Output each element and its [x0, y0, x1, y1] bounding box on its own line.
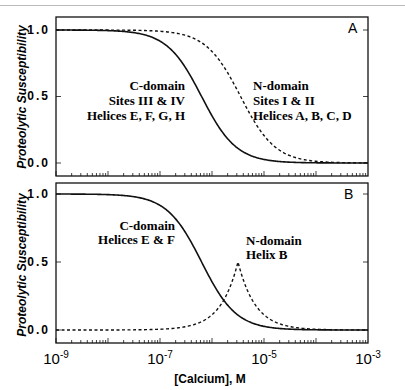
- svg-text:C-domain: C-domain: [119, 218, 175, 233]
- svg-text:Helix B: Helix B: [246, 247, 288, 262]
- panel-a-c-domain-curve: [56, 30, 368, 163]
- panel-b-ticks: [56, 194, 368, 343]
- panel-b-ylabel: Proteolytic Susceptibility: [15, 192, 29, 337]
- x-axis-label: [Calcium], M: [174, 372, 245, 386]
- xtick-1e-7: 10-7: [147, 349, 173, 367]
- panel-a-n-domain-curve: [56, 30, 368, 163]
- panel-a-ylabel: Proteolytic Susceptibility: [15, 24, 29, 169]
- xtick-1e-9: 10-9: [43, 349, 69, 367]
- panel-a-n-domain-annotation: N-domain Sites I & II Helices A, B, C, D: [253, 78, 352, 123]
- panel-b-ytick-0: 0.0: [27, 323, 50, 337]
- svg-text:Sites III & IV: Sites III & IV: [109, 93, 186, 108]
- panel-b-label: B: [344, 186, 353, 202]
- panel-b-ytick-05: 0.5: [27, 255, 50, 269]
- panel-a-c-domain-annotation: C-domain Sites III & IV Helices E, F, G,…: [87, 78, 186, 123]
- svg-text:Helices E & F: Helices E & F: [98, 232, 175, 247]
- panel-b-ytick-1: 1.0: [27, 187, 50, 201]
- panel-b-c-domain-annotation: C-domain Helices E & F: [98, 218, 176, 247]
- panel-b-n-domain-curve: [56, 262, 368, 330]
- svg-text:N-domain: N-domain: [246, 233, 302, 248]
- svg-text:Helices A, B, C, D: Helices A, B, C, D: [253, 108, 352, 123]
- svg-text:Helices E, F, G, H: Helices E, F, G, H: [87, 108, 185, 123]
- panel-a-ytick-0: 0.0: [27, 156, 50, 170]
- panel-b-c-domain-curve: [56, 194, 368, 330]
- svg-text:C-domain: C-domain: [129, 78, 185, 93]
- panel-b-n-domain-annotation: N-domain Helix B: [246, 233, 302, 262]
- panel-b-frame: [56, 183, 368, 343]
- panel-a-frame: [56, 17, 368, 176]
- panel-a-ytick-05: 0.5: [27, 89, 50, 103]
- xtick-1e-5: 10-5: [251, 349, 277, 367]
- chart-canvas: 1.0 0.5 0.0 1.0 0.5 0.0 Proteolytic Susc…: [0, 0, 405, 390]
- figure: 1.0 0.5 0.0 1.0 0.5 0.0 Proteolytic Susc…: [0, 0, 405, 390]
- xtick-1e-3: 10-3: [355, 349, 381, 367]
- panel-a-ytick-1: 1.0: [27, 23, 50, 37]
- panel-a-label: A: [348, 20, 358, 36]
- svg-text:N-domain: N-domain: [253, 78, 309, 93]
- svg-text:Sites I & II: Sites I & II: [253, 93, 315, 108]
